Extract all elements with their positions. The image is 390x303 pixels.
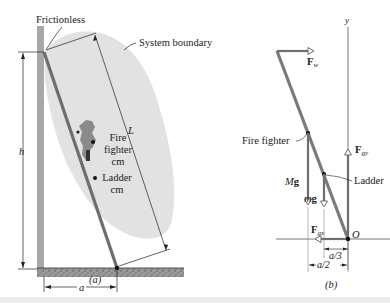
fire-fighter-label: Fire fighter xyxy=(242,136,290,147)
base-label: a xyxy=(77,283,86,294)
force-wall-subscript: w xyxy=(313,61,318,69)
panel-a-caption: (a) xyxy=(89,275,101,286)
weight-ladder-label: mg xyxy=(304,194,317,205)
force-ground-y-label: Fgy xyxy=(355,145,368,157)
force-ground-x-label: Fgx xyxy=(311,225,324,237)
system-boundary-label: System boundary xyxy=(139,38,212,49)
fire-fighter-cm-line3: cm xyxy=(99,156,137,168)
y-axis-label: y xyxy=(345,16,349,25)
weight-ladder-g: g xyxy=(312,193,317,204)
ladder-cm-line2: cm xyxy=(97,184,137,196)
panel-b xyxy=(276,27,390,272)
ladder-cm-label: Ladder cm xyxy=(97,172,137,196)
origin-label: O xyxy=(352,230,360,241)
distance-a3-label: a/3 xyxy=(329,251,342,261)
panel-b-caption: (b) xyxy=(325,280,337,291)
ladder-cm-line1: Ladder xyxy=(97,172,137,184)
weight-ladder-mass: m xyxy=(304,193,312,204)
ground xyxy=(37,268,184,277)
fire-fighter-cm-label: Fire fighter cm xyxy=(99,132,137,168)
fire-fighter-cm-line2: fighter xyxy=(99,144,137,156)
force-ground-x-subscript: gx xyxy=(317,229,324,237)
force-ground-y-subscript: gy xyxy=(361,149,368,157)
bottom-strip xyxy=(0,297,390,303)
height-label: h xyxy=(19,147,24,158)
origin-point xyxy=(346,237,350,241)
weight-fire-fighter-label: Mg xyxy=(285,177,299,188)
force-wall-label: Fw xyxy=(307,57,318,69)
fire-fighter-cm-line1: Fire xyxy=(99,132,137,144)
ladder-label: Ladder xyxy=(354,176,384,187)
wall xyxy=(37,26,44,269)
frictionless-label: Frictionless xyxy=(36,15,85,26)
distance-a2-label: a/2 xyxy=(317,260,330,270)
weight-fire-fighter-g: g xyxy=(294,176,299,187)
fire-fighter-cm-dot xyxy=(91,140,95,144)
ladder-base-point xyxy=(115,266,119,270)
ladder-physics-figure: Frictionless System boundary L h a Fire … xyxy=(0,0,390,303)
weight-fire-fighter-mass: M xyxy=(285,176,294,187)
